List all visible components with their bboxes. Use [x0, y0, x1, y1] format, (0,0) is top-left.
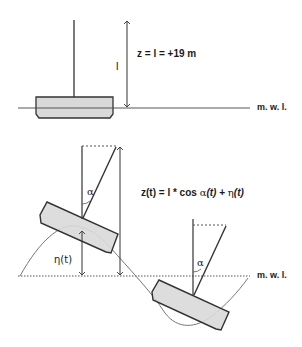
- alpha-arc-right: [193, 269, 201, 272]
- wave-formula: z(t) = l * cos α(t) + η(t): [141, 187, 244, 198]
- alpha-label-right: α: [197, 257, 204, 268]
- length-label: l: [116, 60, 118, 72]
- alpha-arc-left: [82, 201, 90, 204]
- heeled-mast-left: [83, 147, 116, 218]
- waterline-label-top: m. w. l.: [257, 102, 287, 112]
- formula-prefix: z(t) = l * cos: [141, 187, 200, 198]
- hull-right-heeled: [152, 280, 229, 330]
- formula-eta-arg: (t): [234, 187, 244, 198]
- eta-label: η(t): [54, 254, 72, 265]
- alpha-label-left: α: [87, 186, 94, 197]
- waterline-label-bottom: m. w. l.: [257, 270, 287, 280]
- bottom-wave-scene: [18, 146, 250, 330]
- formula-plus: +: [216, 187, 227, 198]
- top-still-water-scene: [18, 20, 250, 118]
- top-formula: z = l = +19 m: [137, 48, 196, 59]
- formula-alpha-arg: (t): [206, 187, 216, 198]
- hull-left-heeled: [40, 202, 118, 253]
